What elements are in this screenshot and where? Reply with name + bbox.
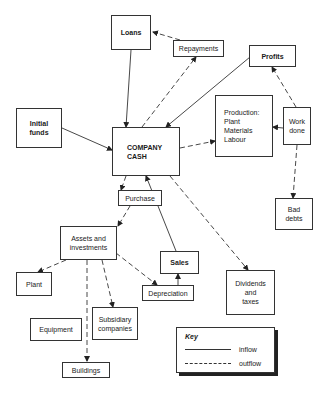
node-company-cash: COMPANY CASH <box>112 127 180 176</box>
edge-assets-to-depreciation <box>116 253 157 285</box>
node-buildings: Buildings <box>62 362 110 378</box>
node-assets: Assets and investments <box>60 226 117 260</box>
legend-outflow-label: outflow <box>239 360 261 367</box>
node-buildings-label: Buildings <box>72 366 100 375</box>
node-loans-label: Loans <box>121 28 142 37</box>
node-repayments-label: Repayments <box>179 44 218 53</box>
node-profits: Profits <box>249 45 296 67</box>
node-dividends: Dividends and taxes <box>226 270 275 315</box>
node-initial-funds: Initial funds <box>16 108 62 148</box>
node-work-done: Work done <box>283 107 311 145</box>
node-equipment-label: Equipment <box>39 325 72 334</box>
node-sales-label: Sales <box>170 258 188 267</box>
edge-assets-to-plant <box>38 260 66 272</box>
node-purchase: Purchase <box>118 190 162 206</box>
edge-assets-to-subsidiary <box>102 260 113 307</box>
node-production-label: Production: Plant Materials Labour <box>224 108 259 144</box>
node-repayments: Repayments <box>173 40 224 57</box>
legend-title: Key <box>185 333 198 340</box>
edge-work-done-to-profits <box>272 67 296 107</box>
edge-initial-funds-to-company-cash <box>62 128 112 150</box>
legend-outflow: outflow <box>185 360 261 367</box>
legend: Key inflow outflow <box>176 327 275 373</box>
node-plant-label: Plant <box>26 280 42 289</box>
legend-inflow-swatch <box>185 349 231 350</box>
node-loans: Loans <box>111 15 151 50</box>
node-depreciation: Depreciation <box>142 285 194 301</box>
legend-outflow-swatch <box>185 363 231 364</box>
edge-company-cash-to-purchase <box>121 176 126 190</box>
edge-repayments-to-loans <box>153 32 180 40</box>
node-bad-debts: Bad debts <box>275 198 313 230</box>
edge-loans-to-company-cash <box>126 50 131 127</box>
node-sales: Sales <box>160 251 199 274</box>
node-production: Production: Plant Materials Labour <box>215 95 273 157</box>
edge-work-done-to-bad-debts <box>293 145 297 198</box>
node-equipment: Equipment <box>30 318 82 341</box>
node-initial-funds-label: Initial funds <box>29 119 48 137</box>
edge-sales-to-company-cash <box>146 176 176 251</box>
node-depreciation-label: Depreciation <box>148 289 187 298</box>
node-plant: Plant <box>16 272 52 296</box>
node-assets-label: Assets and investments <box>70 234 107 252</box>
edge-company-cash-to-repayments <box>142 57 196 127</box>
legend-inflow-label: inflow <box>239 346 257 353</box>
node-company-cash-label: COMPANY CASH <box>127 143 162 161</box>
edge-purchase-to-assets <box>118 206 130 226</box>
legend-inflow: inflow <box>185 346 257 353</box>
node-purchase-label: Purchase <box>125 194 155 203</box>
node-subsidiary: Subsidiary companies <box>92 307 138 340</box>
edge-company-cash-to-production <box>180 141 215 148</box>
node-work-done-label: Work done <box>289 117 305 135</box>
node-profits-label: Profits <box>261 52 283 61</box>
node-subsidiary-label: Subsidiary companies <box>98 315 132 333</box>
node-dividends-label: Dividends and taxes <box>235 279 266 306</box>
node-bad-debts-label: Bad debts <box>285 205 302 223</box>
edge-work-done-to-production <box>273 127 283 128</box>
